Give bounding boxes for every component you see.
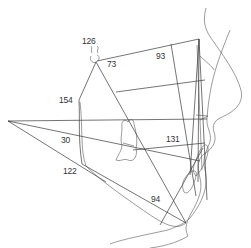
angle-label-sella: 126 bbox=[82, 37, 96, 46]
nose-tip-line bbox=[200, 56, 214, 70]
horizontal-reference-line bbox=[8, 119, 207, 121]
molar-tooth bbox=[116, 120, 137, 161]
n-me-line bbox=[171, 44, 196, 196]
s-ar-line bbox=[79, 62, 96, 100]
angle-label-nasion: 93 bbox=[156, 52, 165, 61]
soft-tissue-profile bbox=[150, 8, 242, 248]
angle-label-n-s-ar: 73 bbox=[107, 60, 116, 69]
lower-incisor-axis bbox=[160, 148, 203, 225]
mandibular-plane-lower bbox=[8, 121, 106, 182]
angle-label-impa: 94 bbox=[151, 195, 160, 204]
angle-label-gonial: 122 bbox=[63, 167, 77, 176]
lower-incisor bbox=[183, 171, 197, 193]
sella-mark-1 bbox=[91, 46, 92, 53]
angle-label-interincisal: 131 bbox=[166, 135, 180, 144]
mandibular-plane bbox=[82, 164, 186, 223]
sn-line bbox=[97, 39, 199, 61]
frankfort-line bbox=[116, 80, 205, 92]
sella-mark-2 bbox=[97, 46, 98, 53]
upper-incisor-axis bbox=[133, 143, 205, 150]
sella-turcica bbox=[90, 55, 99, 62]
angle-label-articulare: 154 bbox=[59, 96, 73, 105]
cephalometric-tracing bbox=[0, 0, 251, 248]
angle-label-fmpa: 30 bbox=[61, 136, 70, 145]
